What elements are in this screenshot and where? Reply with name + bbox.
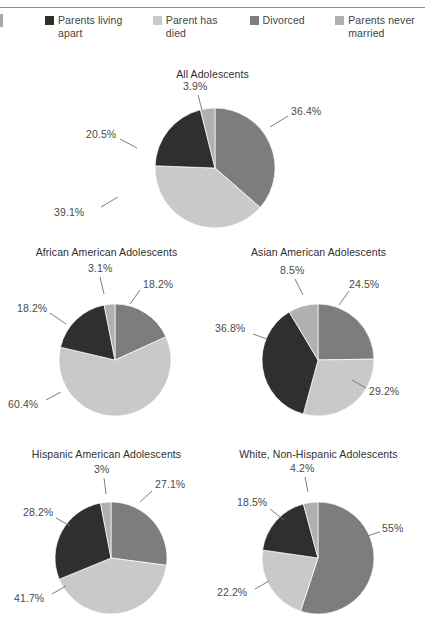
leader-lines: [0, 60, 425, 240]
leader-line: [253, 334, 267, 339]
leader-line: [52, 586, 66, 594]
leader-lines: [212, 440, 425, 636]
legend-item-divorced: Divorced: [250, 14, 324, 27]
leader-line: [270, 116, 288, 127]
leader-line: [367, 532, 380, 536]
leader-line: [120, 139, 137, 148]
legend-item-parents-living-apart: Parents living apart: [45, 14, 141, 39]
legend-swatch-icon: [153, 16, 162, 25]
pie-chart-hispanic-american-adolescents: Hispanic American Adolescents 27.1% 41.7…: [0, 440, 213, 636]
leader-line: [352, 380, 366, 388]
legend-swatch-icon: [250, 16, 259, 25]
leader-line: [339, 291, 349, 305]
legend-item-parents-never-married: Parents never married: [335, 14, 420, 39]
leader-lines: [212, 240, 425, 440]
legend-label: Parents never married: [348, 14, 420, 39]
leader-line: [305, 477, 308, 492]
legend-label: Divorced: [263, 14, 305, 27]
legend-label: Parents living apart: [58, 14, 141, 39]
leader-line: [270, 509, 284, 520]
legend-swatch-icon: [45, 16, 54, 25]
leader-line: [104, 478, 106, 494]
leader-lines: [0, 440, 213, 636]
leader-line: [46, 392, 61, 400]
leader-line: [101, 197, 118, 207]
legend-swatch-icon: [335, 16, 344, 25]
pie-chart-all-adolescents: All Adolescents 36.4% 39.1% 20.5% 3.9%: [0, 60, 425, 240]
chart-legend: Parents living apart Parent has died Div…: [45, 14, 420, 39]
leader-line: [255, 581, 269, 589]
leader-line: [198, 95, 202, 110]
leader-line: [130, 290, 140, 304]
legend-label: Parent has died: [166, 14, 238, 39]
pie-chart-white-non-hispanic-adolescents: White, Non-Hispanic Adolescents 55% 22.2…: [212, 440, 425, 636]
legend-item-parent-has-died: Parent has died: [153, 14, 238, 39]
leader-lines: [0, 240, 213, 440]
pie-chart-african-american-adolescents: African American Adolescents 18.2% 60.4%…: [0, 240, 213, 440]
header-rule: [0, 7, 425, 8]
leader-line: [56, 518, 70, 526]
page-edge-artifact: [0, 14, 3, 27]
pie-chart-asian-american-adolescents: Asian American Adolescents 24.5% 29.2% 3…: [212, 240, 425, 440]
leader-line: [140, 491, 152, 502]
leader-line: [50, 313, 66, 324]
leader-line: [295, 279, 303, 295]
leader-line: [100, 277, 104, 294]
